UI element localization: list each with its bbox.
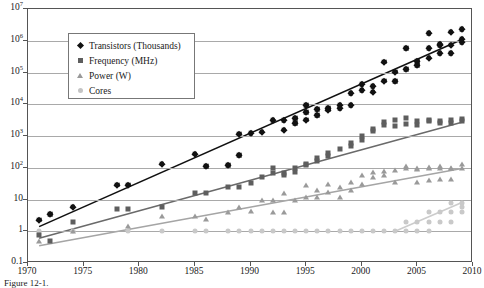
data-point-square bbox=[348, 141, 353, 146]
data-point-triangle bbox=[281, 191, 287, 196]
data-point-diamond bbox=[115, 183, 120, 188]
data-point-triangle bbox=[359, 182, 365, 187]
data-point-diamond bbox=[204, 164, 209, 169]
data-point-diamond bbox=[426, 46, 431, 51]
data-point-circle bbox=[459, 210, 464, 215]
y-tick-label: 105 bbox=[10, 67, 23, 77]
data-point-diamond bbox=[448, 30, 453, 35]
data-point-triangle bbox=[392, 167, 398, 172]
data-point-triangle bbox=[281, 210, 287, 215]
data-point-diamond bbox=[393, 69, 398, 74]
data-point-square bbox=[382, 119, 387, 124]
data-point-square bbox=[304, 161, 309, 166]
data-point-diamond bbox=[426, 31, 431, 36]
data-point-diamond bbox=[304, 110, 309, 115]
data-point-square bbox=[115, 207, 120, 212]
data-point-triangle bbox=[403, 166, 409, 171]
data-point-circle bbox=[248, 229, 253, 234]
data-point-square bbox=[437, 120, 442, 125]
data-point-triangle bbox=[437, 176, 443, 181]
data-point-triangle bbox=[426, 178, 432, 183]
data-point-triangle bbox=[414, 180, 420, 185]
data-point-circle bbox=[359, 229, 364, 234]
circle-icon bbox=[74, 88, 86, 93]
data-point-square bbox=[315, 158, 320, 163]
data-point-triangle bbox=[437, 166, 443, 171]
data-point-circle bbox=[437, 210, 442, 215]
y-tick-label: 102 bbox=[10, 162, 23, 172]
legend-item-transistors: Transistors (Thousands) bbox=[74, 38, 189, 53]
data-point-square bbox=[393, 124, 398, 129]
data-point-triangle bbox=[370, 175, 376, 180]
data-point-circle bbox=[293, 229, 298, 234]
x-tick-label: 1970 bbox=[18, 266, 37, 277]
data-point-triangle bbox=[314, 194, 320, 199]
data-point-diamond bbox=[304, 117, 309, 122]
data-point-diamond bbox=[371, 84, 376, 89]
data-point-diamond bbox=[460, 27, 465, 32]
legend-item-power: Power (W) bbox=[74, 68, 189, 83]
data-point-circle bbox=[426, 219, 431, 224]
data-point-diamond bbox=[315, 107, 320, 112]
data-point-circle bbox=[126, 229, 131, 234]
data-point-square bbox=[293, 165, 298, 170]
data-point-square bbox=[270, 165, 275, 170]
data-point-square bbox=[404, 121, 409, 126]
data-point-triangle bbox=[192, 214, 198, 219]
data-point-diamond bbox=[337, 106, 342, 111]
data-point-circle bbox=[159, 229, 164, 234]
chart-legend: Transistors (Thousands) Frequency (MHz) … bbox=[68, 33, 195, 99]
square-icon bbox=[74, 58, 86, 63]
data-point-diamond bbox=[448, 51, 453, 56]
data-point-triangle bbox=[392, 180, 398, 185]
data-point-triangle bbox=[325, 182, 331, 187]
data-point-triangle bbox=[270, 197, 276, 202]
x-axis: 197019751980198519901995200020052010 bbox=[0, 262, 484, 288]
data-point-circle bbox=[426, 210, 431, 215]
data-point-circle bbox=[337, 229, 342, 234]
data-point-square bbox=[226, 184, 231, 189]
data-point-circle bbox=[304, 229, 309, 234]
data-point-circle bbox=[237, 229, 242, 234]
data-point-triangle bbox=[348, 187, 354, 192]
data-point-triangle bbox=[337, 194, 343, 199]
data-point-triangle bbox=[381, 172, 387, 177]
data-point-diamond bbox=[37, 217, 42, 222]
data-point-triangle bbox=[303, 194, 309, 199]
data-point-square bbox=[337, 146, 342, 151]
data-point-triangle bbox=[225, 210, 231, 215]
data-point-circle bbox=[192, 229, 197, 234]
data-point-circle bbox=[415, 219, 420, 224]
data-point-triangle bbox=[248, 208, 254, 213]
x-tick-label: 1995 bbox=[296, 266, 315, 277]
data-point-triangle bbox=[125, 223, 131, 228]
data-point-square bbox=[70, 219, 75, 224]
data-point-circle bbox=[448, 210, 453, 215]
data-point-square bbox=[159, 204, 164, 209]
data-point-diamond bbox=[237, 153, 242, 158]
figure-caption: Figure 12-1. bbox=[4, 278, 49, 288]
data-point-circle bbox=[259, 229, 264, 234]
data-point-square bbox=[426, 117, 431, 122]
data-point-diamond bbox=[415, 63, 420, 68]
data-point-square bbox=[404, 116, 409, 121]
data-point-square bbox=[248, 181, 253, 186]
data-point-square bbox=[204, 191, 209, 196]
triangle-icon bbox=[74, 73, 86, 78]
data-point-circle bbox=[437, 219, 442, 224]
x-tick-label: 2005 bbox=[407, 266, 426, 277]
data-point-triangle bbox=[459, 166, 465, 171]
data-point-triangle bbox=[203, 216, 209, 221]
y-tick-label: 103 bbox=[10, 130, 23, 140]
x-tick-label: 1980 bbox=[129, 266, 148, 277]
data-point-diamond bbox=[426, 55, 431, 60]
gridline bbox=[28, 104, 471, 105]
legend-label: Transistors (Thousands) bbox=[89, 41, 181, 51]
data-point-diamond bbox=[193, 152, 198, 157]
data-point-circle bbox=[404, 219, 409, 224]
data-point-circle bbox=[270, 229, 275, 234]
data-point-circle bbox=[426, 229, 431, 234]
legend-label: Power (W) bbox=[89, 71, 131, 81]
data-point-diamond bbox=[270, 118, 275, 123]
data-point-diamond bbox=[293, 116, 298, 121]
